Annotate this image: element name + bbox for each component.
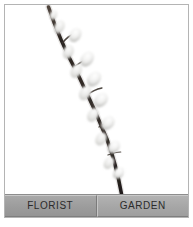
tab-garden-label: GARDEN [120,201,166,212]
tab-garden[interactable]: GARDEN [97,195,189,217]
branch-illustration [5,5,188,195]
tab-florist-label: FLORIST [27,201,73,212]
tab-bar: FLORIST GARDEN [5,194,188,217]
photo-card: FLORIST GARDEN [4,4,189,218]
tab-florist[interactable]: FLORIST [5,195,97,217]
pussy-willow-branch-photo [5,5,188,195]
